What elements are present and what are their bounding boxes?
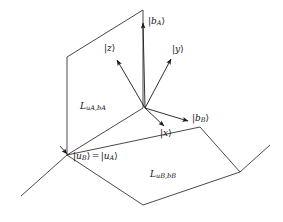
vertical-plane-L-uA-bA [67, 10, 143, 155]
ket-bracket-right: ⟩ [206, 113, 210, 123]
label-plane-L-uA-bA: LuA,bA [80, 102, 106, 112]
ket-bracket-right: ⟩ [180, 44, 184, 54]
right-floor-extension-line [240, 145, 270, 172]
axis-arrow-y [145, 59, 171, 108]
axis-arrow-z [117, 60, 145, 108]
equals-sign: = [90, 151, 101, 161]
label-ket-z: |z⟩ [104, 44, 115, 53]
left-floor-extension-line [21, 155, 67, 196]
plane-subscript-b-index: A [101, 104, 106, 112]
label-ket-bA: |bA⟩ [148, 17, 165, 27]
axis-arrow-uB-uA-corner [60, 146, 67, 154]
label-ket-bB: |bB⟩ [192, 114, 209, 124]
ket-bracket-right: ⟩ [168, 128, 172, 138]
label-ket-y: |y⟩ [172, 45, 184, 54]
figure-root: |bA⟩ |z⟩ |y⟩ |x⟩ |bB⟩ |uB⟩=|uA⟩ LuA,bA L… [0, 0, 283, 222]
plane-subscript-b-index: B [171, 172, 176, 180]
diagram-canvas [0, 0, 283, 222]
ket-bracket-right: ⟩ [112, 43, 116, 53]
ket-bracket-right: ⟩ [162, 16, 166, 26]
ket-bracket-right-second: ⟩ [114, 151, 118, 161]
label-ket-x: |x⟩ [160, 129, 172, 138]
label-ket-uB-equals-uA: |uB⟩=|uA⟩ [73, 152, 118, 162]
label-plane-L-uB-bB: LuB,bB [150, 170, 176, 180]
